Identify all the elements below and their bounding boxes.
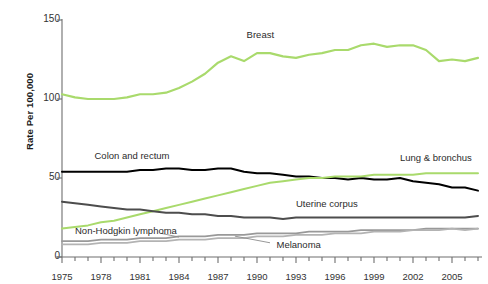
series-label-non-hodgkin-lymphoma: Non-Hodgkin lymphoma (75, 226, 177, 236)
series-label-melanoma: Melanoma (277, 240, 321, 250)
series-line-breast (62, 44, 478, 99)
series-label-colon-and-rectum: Colon and rectum (95, 151, 170, 161)
series-line-colon-and-rectum (62, 169, 478, 191)
chart-figure: Rate Per 100,000 050100150 1975197819811… (0, 0, 488, 284)
series-label-lung-bronchus: Lung & bronchus (400, 153, 472, 163)
series-line-uterine-corpus (62, 202, 478, 219)
series-label-uterine-corpus: Uterine corpus (296, 199, 358, 209)
chart-plot-area (0, 0, 488, 284)
series-label-breast: Breast (247, 30, 274, 40)
